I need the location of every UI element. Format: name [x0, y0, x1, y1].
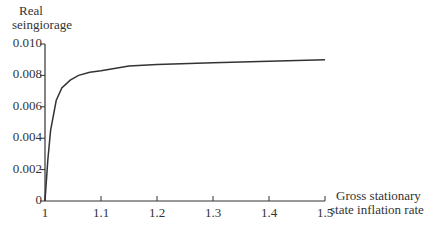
x-axis-label-line1: Gross stationary — [336, 189, 421, 203]
x-tick-label: 1.4 — [261, 206, 277, 220]
x-tick-label: 1.1 — [93, 206, 109, 220]
x-tick-label: 1.5 — [317, 206, 333, 220]
seigniorage-curve — [45, 60, 325, 201]
y-tick-label: 0.008 — [13, 67, 42, 81]
y-axis-label-line2: seingiorage — [12, 18, 72, 32]
x-tick-label: 1.2 — [149, 206, 165, 220]
y-tick-label: 0.002 — [13, 162, 42, 176]
figure-caption — [0, 226, 435, 236]
y-tick-label: 0.006 — [13, 99, 42, 113]
y-tick-label: 0.004 — [13, 130, 42, 144]
y-axis-label-line1: Real — [19, 4, 43, 18]
x-axis-label-line2: state inflation rate — [330, 203, 424, 217]
x-tick-label: 1 — [42, 206, 49, 220]
y-tick-label: 0.010 — [13, 36, 42, 50]
x-tick-label: 1.3 — [205, 206, 221, 220]
